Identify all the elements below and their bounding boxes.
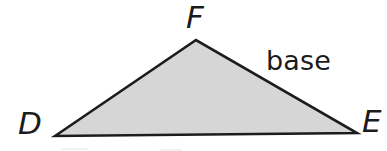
geometry-figure: D E F base [0, 0, 387, 151]
scan-artifact [160, 149, 182, 151]
side-label-base: base [266, 47, 331, 74]
scan-artifact [62, 148, 88, 150]
vertex-label-f: F [186, 2, 204, 33]
vertex-label-e: E [362, 106, 382, 137]
vertex-label-d: D [18, 108, 42, 139]
